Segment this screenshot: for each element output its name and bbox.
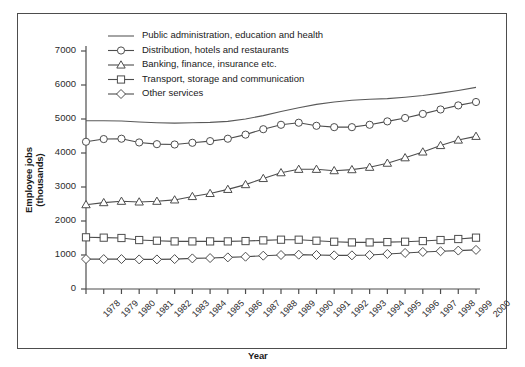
series-4 (82, 234, 479, 246)
x-axis-title: Year (248, 350, 268, 361)
plot-area (18, 14, 508, 350)
chart-frame: Employee jobs (thousands) Year 010002000… (17, 13, 507, 349)
series-5 (82, 245, 481, 264)
figure-container: Employee jobs (thousands) Year 010002000… (0, 0, 525, 367)
series-2 (82, 98, 479, 148)
series-1 (86, 87, 476, 123)
